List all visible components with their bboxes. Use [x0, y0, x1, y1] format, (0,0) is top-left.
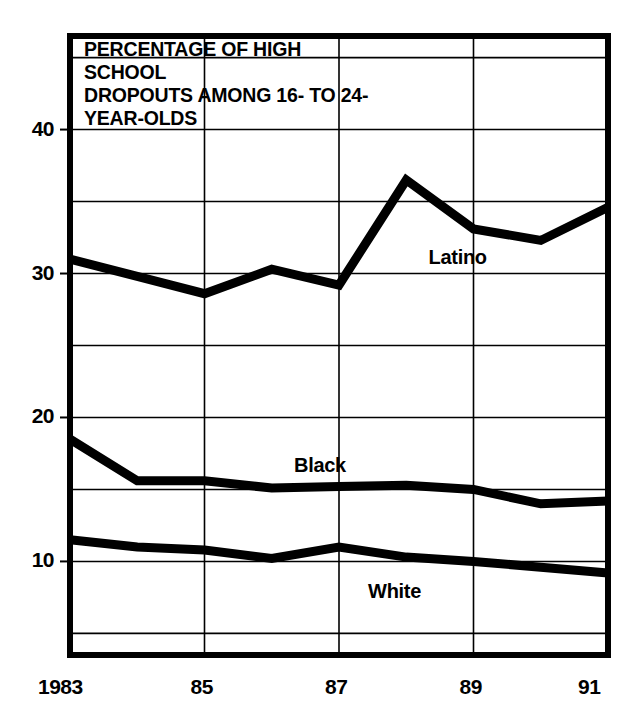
series-label-latino: Latino — [429, 246, 487, 269]
y-tick-label-10: 10 — [2, 548, 54, 572]
y-tick-label-40: 40 — [2, 117, 54, 141]
y-tick-label-30: 30 — [2, 261, 54, 285]
x-tick-label-91: 91 — [578, 675, 600, 699]
y-tick-label-20: 20 — [2, 404, 54, 428]
series-label-black: Black — [294, 454, 346, 477]
x-tick-label-85: 85 — [191, 675, 213, 699]
x-tick-label-87: 87 — [325, 675, 347, 699]
x-tick-label-89: 89 — [460, 675, 482, 699]
series-label-white: White — [368, 580, 421, 603]
chart-figure: PERCENTAGE OF HIGH SCHOOL DROPOUTS AMONG… — [0, 0, 641, 713]
x-tick-label-1983: 1983 — [38, 675, 83, 699]
page-title: PERCENTAGE OF HIGH SCHOOL DROPOUTS AMONG… — [84, 38, 384, 130]
